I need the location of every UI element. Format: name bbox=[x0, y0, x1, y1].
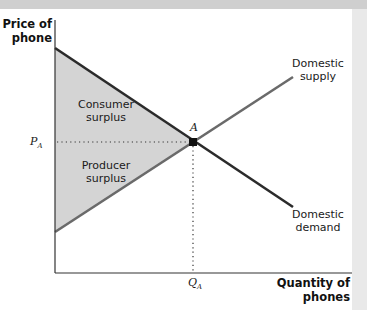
y-axis-label: Price of phone bbox=[2, 17, 52, 45]
demand-label-line1: Domestic bbox=[283, 208, 353, 221]
consumer-surplus-line2: surplus bbox=[72, 111, 140, 124]
quantity-symbol: Q bbox=[188, 276, 197, 289]
supply-label-line1: Domestic bbox=[283, 57, 353, 70]
consumer-surplus-label: Consumer surplus bbox=[72, 98, 140, 124]
producer-surplus-line1: Producer bbox=[72, 159, 140, 172]
x-axis-label: Quantity of phones bbox=[270, 276, 350, 304]
price-subscript: A bbox=[37, 142, 42, 150]
x-axis-label-line2: phones bbox=[270, 290, 350, 304]
x-axis-label-line1: Quantity of bbox=[270, 276, 350, 290]
demand-label-line2: demand bbox=[283, 221, 353, 234]
supply-label: Domestic supply bbox=[283, 57, 353, 83]
equilibrium-label: A bbox=[190, 121, 198, 134]
supply-label-line2: supply bbox=[283, 70, 353, 83]
equilibrium-point bbox=[189, 138, 197, 146]
quantity-a-label: QA bbox=[188, 276, 202, 294]
chart-canvas bbox=[0, 0, 367, 310]
y-axis-label-line1: Price of bbox=[2, 17, 52, 31]
demand-label: Domestic demand bbox=[283, 208, 353, 234]
producer-surplus-line2: surplus bbox=[72, 172, 140, 185]
price-a-label: PA bbox=[30, 135, 42, 153]
consumer-surplus-line1: Consumer bbox=[72, 98, 140, 111]
quantity-subscript: A bbox=[197, 283, 202, 291]
producer-surplus-label: Producer surplus bbox=[72, 159, 140, 185]
y-axis-label-line2: phone bbox=[2, 31, 52, 45]
